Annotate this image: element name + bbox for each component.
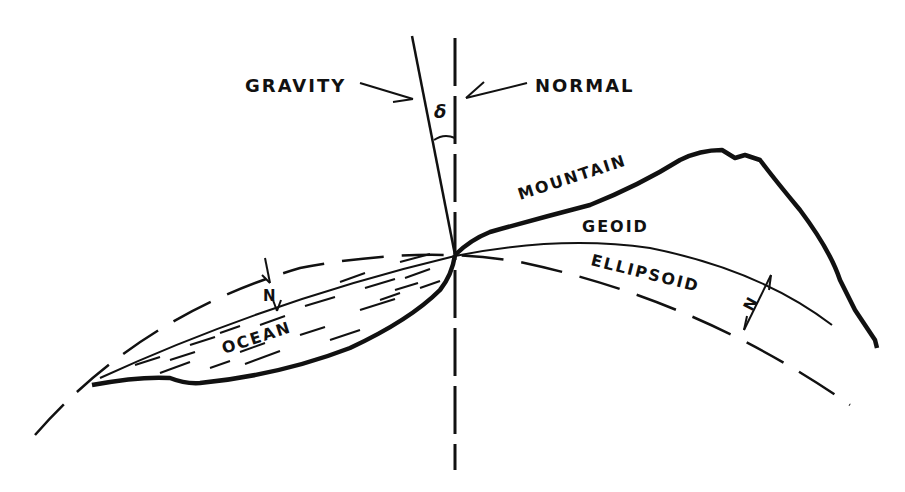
delta-angle-arc bbox=[434, 136, 455, 140]
n-land-label: N bbox=[740, 294, 762, 314]
geoid-label: GEOID bbox=[582, 217, 649, 236]
diagram-svg: GRAVITY NORMAL δ MOUNTAIN GEOID ELLIPSOI… bbox=[0, 0, 905, 492]
normal-arrow bbox=[466, 82, 527, 98]
n-ocean-label: N bbox=[263, 287, 276, 305]
mountain-surface bbox=[455, 150, 877, 348]
gravity-arrow bbox=[360, 83, 413, 102]
gravity-label: GRAVITY bbox=[245, 75, 346, 96]
gravity-line bbox=[412, 36, 455, 255]
geoid-curve bbox=[100, 243, 832, 378]
ellipsoid-label: ELLIPSOID bbox=[589, 250, 702, 295]
ellipsoid-curve bbox=[35, 255, 850, 435]
normal-label: NORMAL bbox=[535, 75, 635, 96]
delta-label: δ bbox=[434, 101, 446, 122]
geodesy-diagram: GRAVITY NORMAL δ MOUNTAIN GEOID ELLIPSOI… bbox=[0, 0, 905, 492]
